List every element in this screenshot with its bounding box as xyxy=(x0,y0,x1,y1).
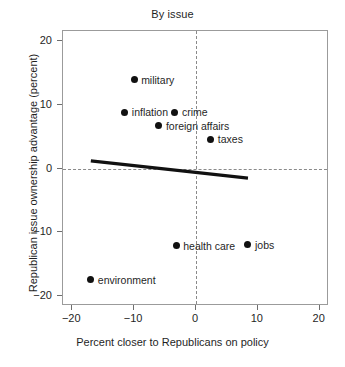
data-point-label: inflation xyxy=(132,106,168,118)
x-tick-label: 20 xyxy=(299,312,339,324)
x-tick-mark xyxy=(133,305,134,310)
plot-area: militaryinflationcrimeforeign affairstax… xyxy=(62,30,328,305)
y-tick-mark xyxy=(57,40,62,41)
x-tick-label: −10 xyxy=(113,312,153,324)
x-tick-label: −20 xyxy=(51,312,91,324)
regression-line xyxy=(63,31,329,306)
x-tick-label: 10 xyxy=(237,312,277,324)
data-point-label: crime xyxy=(182,106,208,118)
data-point-label: health care xyxy=(183,240,235,252)
x-tick-label: 0 xyxy=(175,312,215,324)
data-point-label: jobs xyxy=(255,239,274,251)
x-axis-label: Percent closer to Republicans on policy xyxy=(0,336,345,348)
chart-title: By issue xyxy=(0,8,345,20)
data-point xyxy=(207,136,214,143)
y-tick-mark xyxy=(57,295,62,296)
data-point-label: taxes xyxy=(218,133,243,145)
y-tick-mark xyxy=(57,104,62,105)
chart-figure: By issue militaryinflationcrimeforeign a… xyxy=(0,0,345,367)
x-tick-mark xyxy=(195,305,196,310)
data-point xyxy=(131,76,138,83)
data-point-label: environment xyxy=(98,274,156,286)
x-tick-mark xyxy=(257,305,258,310)
data-point-label: foreign affairs xyxy=(166,120,229,132)
y-tick-mark xyxy=(57,231,62,232)
data-point-label: military xyxy=(141,74,174,86)
x-tick-mark xyxy=(319,305,320,310)
x-tick-mark xyxy=(71,305,72,310)
y-axis-label: Republican issue ownership advantage (pe… xyxy=(27,43,39,303)
y-tick-mark xyxy=(57,168,62,169)
